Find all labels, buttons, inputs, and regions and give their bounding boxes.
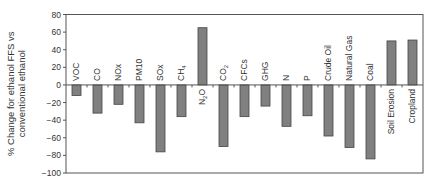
category-label: NOx [114,63,124,81]
y-axis-ticks: 806040200−20−40−60−80−100 [42,10,66,179]
category-label: Cropland [408,89,418,124]
y-tick-label: 60 [52,27,62,37]
category-label: CO2 [219,64,230,81]
bar-ch4 [177,85,186,117]
category-label: CO [93,68,103,81]
category-label: N2O [198,89,209,105]
bar-chart: % Change for ethanol FFS vsconventional … [0,0,442,185]
y-tick-label: 20 [52,62,62,72]
y-tick-label: −100 [42,168,61,178]
y-tick-label: −60 [47,133,62,143]
bars [72,28,417,159]
y-tick-label: 0 [56,80,61,90]
y-tick-label: −20 [47,98,62,108]
bar-soil-erosion [387,41,396,85]
y-tick-label: 80 [52,10,62,20]
bar-nox [114,85,123,104]
category-label: PM10 [135,58,145,80]
bar-sox [156,85,165,152]
y-tick-label: −80 [47,150,62,160]
bar-co2 [219,85,228,147]
bar-coal [366,85,375,159]
category-label: VOC [72,63,82,81]
bar-co [93,85,102,113]
category-label: SOx [156,64,166,81]
y-axis-label-line: conventional ethanol [16,50,27,137]
category-label: Coal [366,63,376,81]
bar-ghg [261,85,270,106]
bar-p [303,85,312,116]
category-label: Soil Erosion [387,89,397,135]
category-label: GHG [261,62,271,81]
bar-crude-oil [324,85,333,136]
category-label: P [303,75,313,81]
category-label: N [282,75,292,81]
bar-n2o [198,28,207,85]
y-tick-label: 40 [52,45,62,55]
y-axis-label-line: % Change for ethanol FFS vs [5,31,16,156]
category-label: Crude Oil [324,45,334,81]
y-axis-label: % Change for ethanol FFS vsconventional … [5,31,27,156]
bar-cropland [408,40,417,85]
bar-cfcs [240,85,249,117]
bar-n [282,85,291,126]
bar-voc [72,85,81,96]
y-tick-label: −40 [47,115,62,125]
category-label: CH4 [177,65,188,81]
category-label: CFCs [240,59,250,81]
bar-pm10 [135,85,144,123]
category-label: Natural Gas [345,36,355,81]
bar-natural-gas [345,85,354,148]
